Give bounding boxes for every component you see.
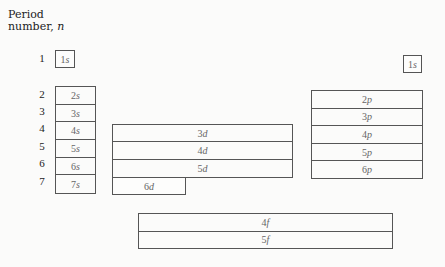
- orbital-l: p: [367, 147, 372, 158]
- period-number-5: 5: [36, 140, 48, 152]
- orbital-5s: 5s: [56, 140, 95, 158]
- period-number-3: 3: [36, 105, 48, 117]
- orbital-5d: 5d: [113, 160, 292, 177]
- orbital-l: p: [367, 94, 372, 105]
- orbital-4s: 4s: [56, 122, 95, 140]
- orbital-6d: 6d: [112, 177, 186, 195]
- orbital-7s: 7s: [56, 175, 95, 193]
- period-number-label: Period number, n: [8, 9, 64, 33]
- f-block: 4f 5f: [138, 213, 393, 249]
- s-block: 2s 3s 4s 5s 6s 7s: [55, 86, 96, 194]
- orbital-5f: 5f: [139, 232, 392, 249]
- orbital-4p: 4p: [312, 126, 422, 144]
- d-block: 3d 4d 5d: [112, 124, 293, 178]
- orbital-l: s: [76, 179, 80, 190]
- orbital-2s: 2s: [56, 87, 95, 105]
- orbital-l: d: [203, 128, 208, 139]
- orbital-6p: 6p: [312, 161, 422, 178]
- orbital-3s: 3s: [56, 105, 95, 123]
- n-variable: n: [57, 20, 64, 33]
- orbital-l: s: [76, 125, 80, 136]
- orbital-l: p: [367, 111, 372, 122]
- orbital-l: f: [267, 234, 270, 245]
- orbital-2p: 2p: [312, 91, 422, 109]
- period-number-4: 4: [36, 122, 48, 134]
- orbital-l: d: [149, 181, 154, 192]
- orbital-l: p: [367, 129, 372, 140]
- period-label-line2: number, n: [8, 21, 64, 33]
- orbital-1s-left: 1s: [55, 50, 75, 68]
- orbital-l: p: [367, 164, 372, 175]
- p-block: 2p 3p 4p 5p 6p: [311, 90, 423, 179]
- orbital-4f: 4f: [139, 214, 392, 232]
- orbital-3p: 3p: [312, 109, 422, 127]
- orbital-l: s: [413, 59, 417, 70]
- period-number-7: 7: [36, 175, 48, 187]
- orbital-l: d: [203, 163, 208, 174]
- orbital-l: s: [76, 90, 80, 101]
- orbital-l: f: [267, 217, 270, 228]
- orbital-5p: 5p: [312, 144, 422, 162]
- orbital-l: d: [203, 145, 208, 156]
- orbital-l: s: [76, 143, 80, 154]
- orbital-l: s: [76, 161, 80, 172]
- orbital-l: s: [76, 108, 80, 119]
- period-number-2: 2: [36, 88, 48, 100]
- orbital-1s-right: 1s: [403, 55, 422, 73]
- orbital-3d: 3d: [113, 125, 292, 142]
- orbital-4d: 4d: [113, 142, 292, 159]
- period-number-1: 1: [36, 52, 48, 64]
- period-number-6: 6: [36, 157, 48, 169]
- orbital-6s: 6s: [56, 158, 95, 176]
- orbital-l: s: [66, 54, 70, 65]
